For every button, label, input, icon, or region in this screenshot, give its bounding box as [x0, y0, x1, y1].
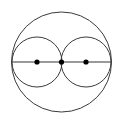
circles-diagram	[0, 0, 123, 124]
left-center-point	[34, 59, 39, 64]
middle-center-point	[59, 59, 64, 64]
right-center-point	[83, 59, 88, 64]
figure-container	[0, 0, 123, 124]
